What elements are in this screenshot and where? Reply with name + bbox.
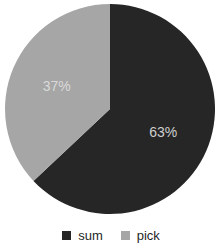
- pie-chart: 63%37% sum pick: [0, 0, 222, 248]
- legend-swatch-pick: [121, 231, 130, 240]
- legend-swatch-sum: [62, 231, 71, 240]
- slice-label-pick: 37%: [43, 78, 71, 94]
- legend-label-sum: sum: [78, 229, 103, 242]
- legend-item-sum: sum: [62, 229, 103, 242]
- legend: sum pick: [0, 229, 222, 242]
- legend-item-pick: pick: [121, 229, 160, 242]
- pie-svg: 63%37%: [0, 0, 222, 222]
- slice-label-sum: 63%: [149, 124, 177, 140]
- legend-label-pick: pick: [137, 229, 160, 242]
